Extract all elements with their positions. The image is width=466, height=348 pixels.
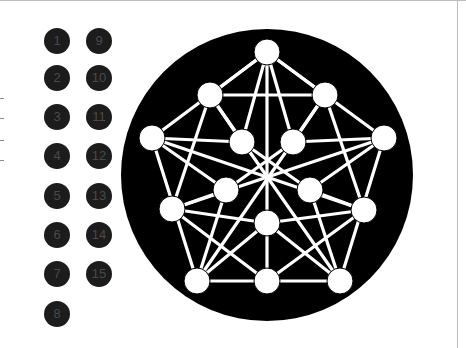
graph-diagram	[0, 0, 466, 348]
